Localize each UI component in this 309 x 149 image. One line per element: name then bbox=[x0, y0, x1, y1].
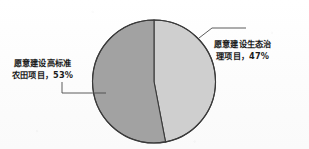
leader-line-eco bbox=[199, 28, 246, 38]
pie-label-farm-line1: 愿意建设高标准 bbox=[12, 58, 73, 70]
pie-label-farm-line2: 农田项目，53% bbox=[12, 70, 73, 82]
pie-slice-eco[interactable] bbox=[154, 20, 215, 142]
pie-label-eco: 愿意建设生态治 理项目，47% bbox=[214, 39, 271, 62]
pie-label-eco-line1: 愿意建设生态治 bbox=[214, 39, 271, 51]
pie-label-farm: 愿意建设高标准 农田项目，53% bbox=[12, 58, 73, 81]
pie-label-eco-line2: 理项目，47% bbox=[214, 51, 271, 63]
pie-chart-figure: 愿意建设生态治 理项目，47% 愿意建设高标准 农田项目，53% bbox=[0, 0, 309, 149]
